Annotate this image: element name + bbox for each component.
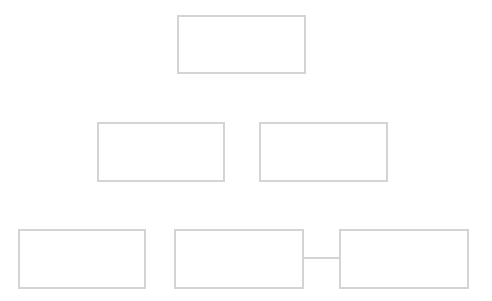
node-bottom-center[interactable] bbox=[174, 229, 304, 289]
node-middle-right[interactable] bbox=[259, 122, 388, 182]
node-bottom-right[interactable] bbox=[339, 229, 469, 289]
node-middle-left[interactable] bbox=[97, 122, 225, 182]
node-bottom-left[interactable] bbox=[18, 229, 146, 289]
node-top[interactable] bbox=[177, 15, 306, 74]
connector-line bbox=[303, 257, 340, 259]
